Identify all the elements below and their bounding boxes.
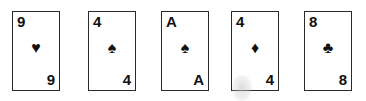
diamond-icon: ♦ [251,40,259,56]
card-ace-spades: A ♠ A [161,11,209,91]
spade-icon: ♠ [108,40,117,56]
spade-icon: ♠ [181,40,190,56]
card-rank-bottom: 4 [266,72,274,87]
card-rank-top: A [166,14,177,29]
club-icon: ♣ [323,40,334,56]
card-rank-top: 4 [93,14,101,29]
card-9-hearts: 9 ♥ 9 [12,11,60,91]
card-rank-bottom: 8 [339,72,347,87]
card-4-spades: 4 ♠ 4 [88,11,136,91]
heart-icon: ♥ [31,40,41,56]
card-rank-top: 4 [236,14,244,29]
card-8-clubs: 8 ♣ 8 [304,11,352,91]
card-rank-top: 9 [17,14,25,29]
card-rank-top: 8 [309,14,317,29]
card-rank-bottom: 9 [47,72,55,87]
scan-smudge [232,75,252,101]
card-rank-bottom: A [193,72,204,87]
card-rank-bottom: 4 [123,72,131,87]
